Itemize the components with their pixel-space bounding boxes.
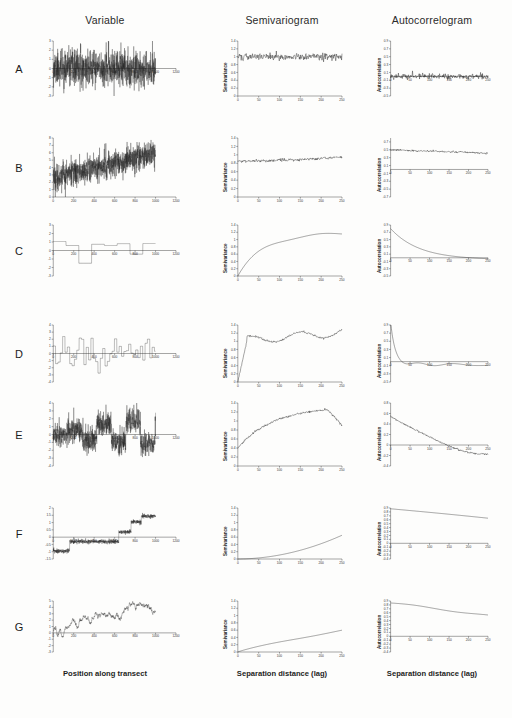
svg-text:0.8: 0.8 [231,528,236,532]
plot-d-autocorrelogram: 050100150200250-0.5-0.3-0.10.10.30.50.70… [372,322,492,390]
svg-text:150: 150 [446,171,452,175]
svg-text:8: 8 [49,136,51,140]
svg-text:-0.3: -0.3 [383,646,389,650]
svg-text:0.2: 0.2 [384,627,389,631]
svg-text:0: 0 [386,541,388,545]
svg-text:0.2: 0.2 [231,267,236,271]
svg-text:50: 50 [257,98,261,102]
svg-text:0: 0 [52,634,54,638]
svg-text:4: 4 [49,166,51,170]
svg-text:0.4: 0.4 [231,364,236,368]
svg-text:7: 7 [49,143,51,147]
svg-text:100: 100 [427,447,433,451]
svg-text:0.9: 0.9 [384,323,389,327]
svg-text:100: 100 [427,171,433,175]
svg-text:200: 200 [71,199,77,203]
svg-text:-3: -3 [48,274,51,278]
row-label-d: D [12,348,26,360]
svg-text:-0.4: -0.4 [383,557,389,561]
svg-text:50: 50 [408,447,412,451]
svg-text:600: 600 [112,634,118,638]
svg-text:2: 2 [49,506,51,510]
svg-text:50: 50 [257,561,261,565]
svg-text:150: 150 [298,199,304,203]
svg-text:0.4: 0.4 [231,636,236,640]
row-label-a: A [12,63,26,75]
svg-text:0.7: 0.7 [384,514,389,518]
svg-text:0: 0 [49,249,51,253]
svg-text:0.8: 0.8 [231,245,236,249]
svg-text:-0.3: -0.3 [383,179,389,183]
svg-text:0: 0 [386,443,388,447]
svg-text:1000: 1000 [152,634,159,638]
svg-text:-0.1: -0.1 [383,78,389,82]
svg-text:1: 1 [49,240,51,244]
svg-text:150: 150 [298,468,304,472]
svg-text:100: 100 [427,545,433,549]
svg-text:-0.5: -0.5 [383,380,389,384]
column-header-variable: Variable [45,14,165,26]
svg-text:-0.3: -0.3 [383,267,389,271]
svg-text:6: 6 [49,151,51,155]
svg-text:50: 50 [257,384,261,388]
svg-text:800: 800 [132,634,138,638]
plot-g-semivariogram: 05010015020025000.20.40.60.811.21.4 [218,598,346,660]
plot-g-variable: 020040060080010001200-3-2-1012345 [30,598,180,660]
svg-text:150: 150 [298,384,304,388]
svg-text:0.3: 0.3 [384,156,389,160]
svg-text:250: 250 [485,638,491,642]
svg-text:0.4: 0.4 [231,260,236,264]
svg-text:0.9: 0.9 [384,599,389,603]
svg-text:-0.2: -0.2 [383,454,389,458]
svg-text:1: 1 [49,425,51,429]
svg-text:1000: 1000 [152,199,159,203]
svg-text:1: 1 [49,57,51,61]
svg-text:0: 0 [52,199,54,203]
svg-text:-1.5: -1.5 [45,557,51,561]
svg-text:50: 50 [408,545,412,549]
y-axis-title-e-autocorrelogram: Autocorrelation [377,426,382,460]
svg-text:0.9: 0.9 [384,39,389,43]
svg-text:2: 2 [49,417,51,421]
svg-text:1200: 1200 [172,436,179,440]
svg-text:1: 1 [234,153,236,157]
svg-text:0: 0 [237,98,239,102]
svg-text:1.2: 1.2 [231,606,236,610]
svg-text:-0.1: -0.1 [383,364,389,368]
svg-text:2: 2 [49,232,51,236]
svg-text:0.6: 0.6 [231,170,236,174]
svg-text:0.3: 0.3 [384,245,389,249]
svg-text:0.6: 0.6 [231,356,236,360]
svg-text:3: 3 [49,409,51,413]
plot-e-autocorrelogram: 050100150200250-0.4-0.200.20.40.60.8 [372,400,492,474]
svg-text:150: 150 [298,654,304,658]
y-axis-title-a-semivariogram: Semivariance [223,62,228,92]
svg-text:1.2: 1.2 [231,410,236,414]
plot-a-variable: 020040060080010001200-3-2-10123 [30,38,180,104]
svg-text:1: 1 [234,339,236,343]
x-axis-title-col-semivariogram: Separation distance (lag) [218,669,346,678]
svg-text:150: 150 [298,98,304,102]
svg-text:100: 100 [277,98,283,102]
svg-text:200: 200 [466,259,472,263]
svg-text:0.5: 0.5 [384,615,389,619]
svg-text:0.6: 0.6 [384,611,389,615]
svg-text:200: 200 [466,447,472,451]
svg-text:50: 50 [257,199,261,203]
svg-text:0.4: 0.4 [231,178,236,182]
svg-text:0.2: 0.2 [231,550,236,554]
svg-text:0: 0 [390,171,392,175]
y-axis-title-g-semivariogram: Semivariance [223,619,228,649]
svg-text:0: 0 [49,195,51,199]
svg-text:0.2: 0.2 [231,187,236,191]
svg-text:200: 200 [319,384,325,388]
svg-text:0.1: 0.1 [384,252,389,256]
svg-text:0: 0 [237,384,239,388]
svg-text:1.2: 1.2 [231,513,236,517]
svg-text:0: 0 [49,433,51,437]
svg-text:250: 250 [485,171,491,175]
svg-text:0.6: 0.6 [231,71,236,75]
svg-text:200: 200 [319,98,325,102]
y-axis-title-f-autocorrelogram: Autocorrelation [377,522,382,556]
svg-text:0.9: 0.9 [384,506,389,510]
